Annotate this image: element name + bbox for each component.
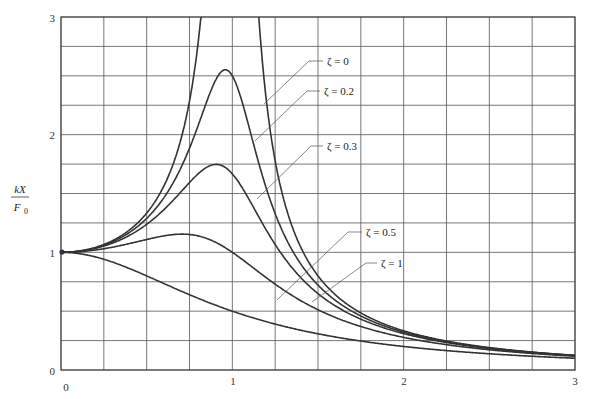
y-tick-3: 3 [50,12,56,24]
label-zeta-02: ζ = 0.2 [324,85,354,98]
leader-lines [255,61,377,302]
y-tick-0: 0 [50,365,56,377]
y-tick-1: 1 [50,247,56,259]
y-axis-label: kX F 0 [11,183,29,216]
label-zeta-1: ζ = 1 [381,257,403,270]
label-zeta-03: ζ = 0.3 [327,140,358,153]
grid-lines [61,17,575,370]
x-tick-0: 0 [63,381,69,393]
origin-point-marker [59,249,64,254]
x-tick-2: 2 [401,375,407,387]
x-tick-1: 1 [230,375,236,387]
y-label-denominator-subscript: 0 [24,207,28,216]
label-zeta-05: ζ = 0.5 [366,226,397,239]
y-label-numerator: kX [14,183,27,195]
leader-zeta-0 [264,61,323,104]
y-tick-2: 2 [50,129,56,141]
frequency-response-chart: 0 1 2 3 0 1 2 3 kX F 0 ζ = 0 ζ = 0.2 ζ =… [0,0,592,399]
leader-zeta-02 [255,91,320,141]
y-label-denominator: F [13,201,21,213]
x-tick-3: 3 [572,375,578,387]
label-zeta-0: ζ = 0 [327,55,349,68]
